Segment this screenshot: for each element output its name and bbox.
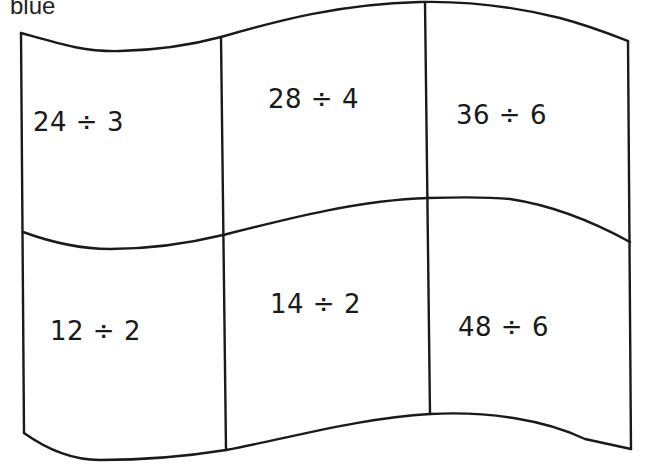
flag-cell-r1c2: 28 ÷ 4: [268, 84, 359, 114]
wavy-flag-grid: [0, 0, 660, 476]
flag-bottom-edge: [24, 413, 631, 460]
flag-cell-r2c2: 14 ÷ 2: [270, 289, 361, 319]
flag-divider-vertical-1: [221, 37, 226, 450]
flag-divider-vertical-2: [425, 2, 430, 414]
flag-cell-r2c3: 48 ÷ 6: [458, 312, 549, 342]
flag-divider-horizontal: [23, 197, 630, 249]
flag-right-edge: [628, 41, 631, 449]
flag-cell-r1c1: 24 ÷ 3: [33, 107, 124, 137]
flag-cell-r1c3: 36 ÷ 6: [456, 100, 547, 130]
flag-top-edge: [21, 2, 628, 51]
flag-cell-r2c1: 12 ÷ 2: [50, 316, 141, 346]
